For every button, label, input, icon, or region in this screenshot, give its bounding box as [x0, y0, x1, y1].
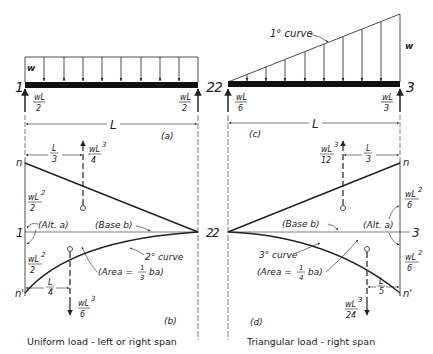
svg-text:6: 6	[238, 104, 243, 113]
svg-text:1: 1	[140, 264, 144, 272]
svg-text:3: 3	[102, 141, 106, 149]
area-label-upper: wL 3 12	[320, 141, 338, 165]
node-n: n	[16, 157, 22, 168]
svg-text:6: 6	[407, 201, 412, 210]
base-label: (Base b)	[95, 220, 133, 230]
dist-label-lower: L 4	[46, 278, 54, 297]
beam	[228, 81, 400, 87]
svg-text:wL: wL	[28, 193, 39, 202]
svg-text:2: 2	[36, 104, 41, 113]
load-arrows	[44, 57, 179, 81]
beam	[25, 82, 198, 88]
ordinate-upper: wL 2 6	[405, 186, 423, 210]
panel-title-right: Triangular load - right span	[246, 336, 375, 347]
svg-text:4: 4	[299, 274, 303, 282]
node-label: 3	[406, 79, 415, 95]
caption-c: (c)	[249, 129, 261, 139]
node-n: n	[403, 157, 409, 168]
caption-d: (d)	[250, 317, 263, 327]
svg-text:1: 1	[299, 264, 303, 272]
svg-text:L: L	[366, 144, 370, 153]
area-label-upper: wL 3 4	[88, 141, 106, 165]
svg-text:24: 24	[346, 311, 356, 320]
load-label: w	[405, 41, 414, 51]
svg-text:2: 2	[418, 186, 423, 194]
curve-label: 2° curve	[145, 252, 184, 262]
ordinate-upper: wL 2 2	[28, 189, 46, 213]
curve-label: 3° curve	[259, 250, 298, 260]
reaction-right-label: wL 2	[179, 93, 191, 113]
area-label-lower: wL 3 6	[78, 295, 95, 319]
dist-label-lower: L 5	[377, 277, 385, 296]
svg-text:(Area =: (Area =	[98, 267, 133, 277]
svg-text:L: L	[48, 278, 52, 287]
dist-label-upper: L 3	[364, 144, 372, 164]
area-label: (Area = 1 4 ba)	[257, 264, 323, 282]
svg-text:3: 3	[384, 104, 389, 113]
svg-text:wL: wL	[180, 93, 191, 102]
svg-text:5: 5	[379, 287, 384, 296]
load-triangle	[228, 14, 400, 82]
reaction-left-label: wL 2	[33, 93, 45, 113]
load-arrows	[247, 22, 381, 81]
svg-text:wL: wL	[345, 300, 356, 309]
reaction-left-label: wL 6	[235, 93, 247, 113]
svg-text:wL: wL	[78, 299, 89, 308]
svg-text:6: 6	[80, 310, 85, 319]
ordinate-lower: wL 2 6	[405, 249, 423, 273]
svg-text:2: 2	[30, 204, 35, 213]
svg-text:6: 6	[407, 264, 412, 273]
svg-text:3: 3	[334, 141, 338, 149]
span-label: L	[110, 118, 117, 132]
triangular-moment-diagram: n n' 2 3 L 3 wL 3 12 wL 2 6 wL 2 6	[212, 141, 423, 347]
svg-text:2: 2	[41, 189, 46, 197]
span-label: L	[312, 117, 319, 131]
svg-text:4: 4	[48, 288, 53, 297]
svg-text:wL: wL	[89, 145, 100, 154]
svg-text:3: 3	[91, 295, 95, 303]
svg-text:(Area =: (Area =	[257, 267, 292, 277]
node-label: 2	[212, 226, 220, 240]
svg-text:wL: wL	[28, 255, 39, 264]
caption-a: (a)	[161, 131, 174, 141]
node-label: 1	[16, 226, 24, 240]
load-curve-label: 1° curve	[270, 28, 313, 39]
base-label: (Base b)	[282, 219, 320, 229]
dist-label-upper: L 3	[50, 144, 58, 164]
svg-text:3: 3	[358, 296, 362, 304]
node-n-prime: n'	[15, 288, 24, 299]
reaction-right-label: wL 3	[381, 93, 393, 113]
svg-text:L: L	[379, 277, 383, 286]
alt-label: (Alt. a)	[38, 220, 68, 230]
svg-text:3: 3	[366, 155, 371, 164]
caption-b: (b)	[164, 316, 177, 326]
svg-text:wL: wL	[405, 190, 416, 199]
panel-title-left: Uniform load - left or right span	[27, 336, 177, 347]
svg-text:2: 2	[30, 266, 35, 275]
svg-text:3: 3	[140, 274, 144, 282]
svg-text:4: 4	[91, 156, 96, 165]
svg-text:ba): ba)	[149, 267, 164, 277]
beam-moment-diagram: w 1 2 wL 2 wL 2 L (a) n n' 1 2	[0, 0, 433, 354]
svg-text:2: 2	[418, 249, 423, 257]
node-label: 3	[412, 226, 420, 240]
node-label: 1	[15, 79, 24, 95]
svg-text:wL: wL	[236, 93, 247, 102]
area-label: (Area = 1 3 ba)	[98, 264, 164, 282]
load-label: w	[27, 63, 36, 73]
svg-text:wL: wL	[34, 93, 45, 102]
svg-text:L: L	[52, 144, 56, 153]
svg-text:ba): ba)	[308, 267, 323, 277]
node-label: 2	[214, 79, 223, 95]
uniform-moment-diagram: n n' 1 2 L 3 wL 3 4 wL 2 2 wL 2	[15, 141, 214, 347]
svg-text:wL: wL	[321, 145, 332, 154]
svg-text:3: 3	[52, 155, 57, 164]
svg-text:12: 12	[321, 156, 331, 165]
svg-text:wL: wL	[382, 93, 393, 102]
triangular-load-beam: 1° curve w 2 3 wL 6 wL 3 L (c)	[214, 14, 415, 340]
svg-text:2: 2	[41, 251, 46, 259]
alt-label: (Alt. a)	[363, 220, 393, 230]
area-label-lower: wL 3 24	[345, 296, 362, 320]
svg-text:2: 2	[182, 104, 187, 113]
svg-text:wL: wL	[405, 253, 416, 262]
